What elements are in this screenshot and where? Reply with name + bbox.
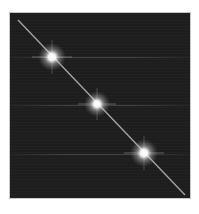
bright-spot [124,136,164,170]
image-overlay [0,0,199,214]
bright-spot [78,88,116,120]
bright-spot [32,40,72,74]
